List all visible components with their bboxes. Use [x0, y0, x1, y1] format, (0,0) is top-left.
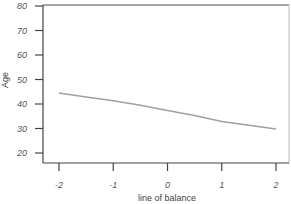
y-tick-label: 60 [17, 50, 27, 60]
x-tick-label: 1 [219, 180, 224, 190]
x-tick-label: -1 [109, 180, 117, 190]
x-axis: -2-1012 [43, 163, 289, 190]
x-tick-label: 0 [165, 180, 170, 190]
x-axis-label: line of balance [138, 193, 196, 203]
series-line [59, 93, 276, 129]
y-axis-label: Age [0, 72, 10, 88]
y-tick-label: 20 [16, 148, 27, 158]
y-axis: 20304050607080 [16, 1, 43, 163]
y-tick-label: 70 [17, 26, 27, 36]
data-series [59, 93, 276, 129]
line-chart: 20304050607080 -2-1012 Age line of balan… [0, 0, 291, 204]
x-tick-label: -2 [55, 180, 63, 190]
y-tick-label: 50 [17, 75, 27, 85]
plot-frame [43, 5, 289, 163]
y-tick-label: 30 [17, 124, 27, 134]
y-tick-label: 80 [17, 1, 27, 11]
x-tick-label: 2 [272, 180, 278, 190]
y-tick-label: 40 [17, 99, 27, 109]
